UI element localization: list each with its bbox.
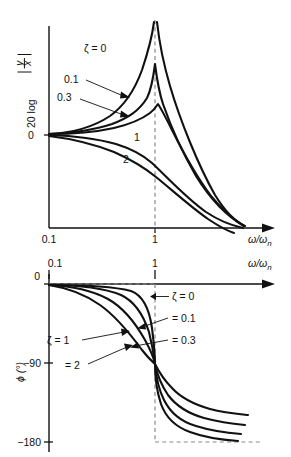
- magnitude-label-zeta-2: 2: [123, 153, 129, 165]
- phase-x-axis-label-sub: n: [267, 263, 272, 272]
- bode-plot-figure: ζ = 0 0.1 0.3 1 2 0 0.1 1 ω/ωn 20 log y …: [0, 0, 291, 457]
- magnitude-y-axis-label-text: 20 log: [25, 99, 37, 128]
- magnitude-x-axis-arrowhead: [262, 224, 275, 233]
- phase-x-axis-label-main: ω/ω: [248, 257, 267, 269]
- magnitude-xtick-label-0.1: 0.1: [42, 233, 57, 245]
- phase-label-zeta-0.1: = 0.1: [172, 312, 196, 324]
- phase-ytick-label-minus180: −180: [17, 436, 41, 448]
- magnitude-curve-zeta-0.3: [49, 104, 244, 226]
- magnitude-curve-zeta-1: [49, 135, 243, 228]
- phase-x-axis-label: ω/ωn: [248, 257, 272, 272]
- magnitude-x-axis-label: ω/ωn: [248, 233, 272, 248]
- magnitude-ytick-label-0: 0: [28, 129, 34, 141]
- magnitude-leader-arrow-0.3: [120, 111, 130, 118]
- magnitude-fraction-denominator: x: [22, 60, 33, 67]
- magnitude-label-zeta-0.3: 0.3: [57, 91, 72, 103]
- magnitude-xtick-label-1: 1: [152, 233, 158, 245]
- phase-leader-zeta-2: [88, 347, 127, 364]
- magnitude-label-zeta-0: ζ = 0: [84, 42, 107, 54]
- magnitude-y-axis-label: 20 log y x: [14, 55, 37, 129]
- magnitude-leader-0.1: [86, 80, 121, 95]
- phase-leader-zeta-1: [82, 332, 124, 340]
- magnitude-plot: ζ = 0 0.1 0.3 1 2 0 0.1 1 ω/ωn 20 log y …: [0, 0, 291, 252]
- magnitude-y-axis-fraction: y x: [14, 55, 33, 73]
- phase-xtick-label-0.1: 0.1: [48, 257, 63, 269]
- magnitude-leader-0.3: [80, 99, 121, 114]
- phase-ytick-label-0: 0: [34, 270, 40, 282]
- phase-leader-arrow-zeta-0: [150, 293, 156, 300]
- phase-label-zeta-1: ζ = 1: [47, 334, 70, 346]
- phase-x-axis-arrowhead: [262, 280, 275, 289]
- magnitude-x-axis-label-main: ω/ω: [248, 233, 267, 245]
- phase-label-zeta-2: = 2: [65, 359, 80, 371]
- phase-label-zeta-0.3: = 0.3: [172, 334, 196, 346]
- magnitude-label-zeta-0.1: 0.1: [64, 73, 79, 85]
- phase-y-axis-label: ϕ (°): [14, 362, 26, 382]
- phase-xtick-label-1: 1: [152, 257, 158, 269]
- phase-plot: ζ = 0 = 0.1 = 0.3 ζ = 1 = 2 0 −90 −180 0…: [0, 252, 291, 457]
- magnitude-x-axis-label-sub: n: [267, 239, 272, 248]
- phase-curve-zeta-2: [49, 285, 248, 415]
- phase-label-zeta-0: ζ = 0: [172, 290, 195, 302]
- magnitude-label-zeta-1: 1: [134, 131, 140, 143]
- magnitude-curve-zeta-2: [49, 136, 234, 233]
- phase-leader-arrow-zeta-0.1: [137, 323, 146, 330]
